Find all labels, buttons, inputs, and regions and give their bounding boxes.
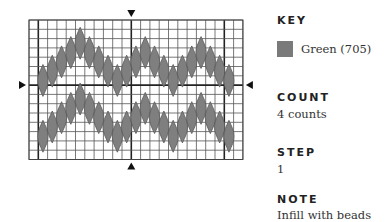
count-value: 4 counts	[277, 107, 327, 121]
chart-grid	[29, 20, 243, 160]
count-heading: COUNT	[277, 91, 330, 104]
key-heading: KEY	[277, 14, 307, 27]
step-heading: STEP	[277, 146, 316, 159]
key-item-label: Green (705)	[301, 42, 371, 56]
step-value: 1	[277, 162, 284, 176]
center-markers	[19, 10, 253, 170]
note-value: Infill with beads	[277, 208, 371, 222]
color-swatch	[277, 41, 293, 57]
stitch-chart	[0, 0, 260, 222]
stitch-pattern	[38, 27, 234, 152]
note-heading: NOTE	[277, 193, 319, 206]
